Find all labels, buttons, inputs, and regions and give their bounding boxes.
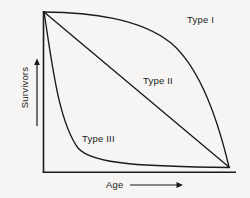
curve-type-2 (44, 12, 230, 168)
curve-label-type-1: Type I (187, 14, 214, 25)
y-axis-label: Survivors (19, 58, 30, 118)
chart-plot-area (0, 0, 250, 198)
x-axis-label: Age (106, 179, 124, 190)
curve-label-type-2: Type II (143, 75, 173, 86)
curve-label-type-3: Type III (82, 133, 115, 144)
survivorship-curve-figure: Type I Type II Type III Survivors Age (0, 0, 250, 198)
right-arrow-icon (130, 182, 183, 188)
up-arrow-icon (34, 59, 40, 127)
